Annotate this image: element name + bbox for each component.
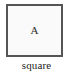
figure-caption: square [0,58,73,72]
shape-figure: A square [0,0,73,73]
shape-interior-label: A [31,25,39,36]
square-shape: A [6,4,63,57]
